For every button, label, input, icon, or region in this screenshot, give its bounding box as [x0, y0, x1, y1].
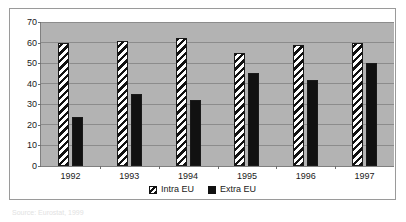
- y-axis-tick: 30: [41, 104, 42, 105]
- y-axis-tick-label: 10: [27, 141, 37, 150]
- bar-extra-eu-1996: [307, 80, 318, 166]
- bar-intra-eu-1992: [58, 43, 69, 166]
- bar-extra-eu-1995: [248, 73, 259, 166]
- bar-group: 1992: [58, 22, 83, 166]
- x-axis-tick: [218, 166, 219, 169]
- legend-item-intra-eu: Intra EU: [149, 185, 194, 194]
- y-axis-tick-label: 70: [27, 18, 37, 27]
- gridline: [41, 104, 394, 105]
- y-axis-tick: 40: [41, 84, 42, 85]
- y-axis-tick-mark: [38, 84, 41, 85]
- bar-group: 1997: [352, 22, 377, 166]
- y-axis-tick: 60: [41, 43, 42, 44]
- bar-extra-eu-1994: [190, 100, 201, 166]
- y-axis-tick: 70: [41, 22, 42, 23]
- bar-intra-eu-1993: [117, 41, 128, 166]
- bar-group: 1994: [176, 22, 201, 166]
- x-axis-label-1993: 1993: [119, 172, 139, 181]
- bar-extra-eu-1992: [72, 117, 83, 166]
- x-axis-label-1995: 1995: [237, 172, 257, 181]
- plot-area: 010203040506070199219931994199519961997: [40, 22, 394, 167]
- bar-extra-eu-1997: [366, 63, 377, 166]
- bar-extra-eu-1993: [131, 94, 142, 166]
- bar-group: 1993: [117, 22, 142, 166]
- x-axis-tick: [335, 166, 336, 169]
- y-axis-tick-mark: [38, 22, 41, 23]
- y-axis-tick-mark: [38, 63, 41, 64]
- y-axis-tick-label: 60: [27, 38, 37, 47]
- legend-swatch-intra-eu-icon: [149, 186, 157, 194]
- x-axis-label-1997: 1997: [355, 172, 375, 181]
- x-axis-label-1996: 1996: [296, 172, 316, 181]
- gridline: [41, 42, 394, 43]
- bar-intra-eu-1994: [176, 38, 187, 166]
- bar-intra-eu-1995: [234, 53, 245, 166]
- y-axis-tick: 10: [41, 145, 42, 146]
- chart-legend: Intra EU Extra EU: [10, 185, 395, 194]
- y-axis-tick-mark: [38, 43, 41, 44]
- y-axis-tick: 50: [41, 63, 42, 64]
- y-axis-tick: 20: [41, 125, 42, 126]
- chart-frame: 010203040506070199219931994199519961997 …: [9, 8, 396, 200]
- gridline: [41, 83, 394, 84]
- legend-label-extra-eu: Extra EU: [220, 185, 256, 194]
- figure-caption: Source: Eurostat, 1999: [12, 209, 84, 216]
- gridline: [41, 145, 394, 146]
- y-axis-tick-label: 50: [27, 59, 37, 68]
- x-axis-tick: [276, 166, 277, 169]
- y-axis-tick-label: 20: [27, 120, 37, 129]
- legend-label-intra-eu: Intra EU: [161, 185, 194, 194]
- y-axis-tick: 0: [41, 166, 42, 167]
- bar-intra-eu-1996: [293, 45, 304, 166]
- y-axis-tick-mark: [38, 145, 41, 146]
- y-axis-tick-mark: [38, 166, 41, 167]
- x-axis-tick: [159, 166, 160, 169]
- y-axis-tick-label: 40: [27, 79, 37, 88]
- legend-item-extra-eu: Extra EU: [208, 185, 256, 194]
- bar-group: 1996: [293, 22, 318, 166]
- bar-group: 1995: [234, 22, 259, 166]
- x-axis-label-1994: 1994: [178, 172, 198, 181]
- y-axis-tick-label: 30: [27, 100, 37, 109]
- gridline: [41, 63, 394, 64]
- y-axis-tick-mark: [38, 125, 41, 126]
- gridline: [41, 124, 394, 125]
- gridline: [41, 22, 394, 23]
- x-axis-label-1992: 1992: [60, 172, 80, 181]
- legend-swatch-extra-eu-icon: [208, 186, 216, 194]
- y-axis-tick-label: 0: [32, 162, 37, 171]
- y-axis-tick-mark: [38, 104, 41, 105]
- chart-figure: 010203040506070199219931994199519961997 …: [0, 0, 406, 222]
- bar-intra-eu-1997: [352, 43, 363, 166]
- x-axis-tick: [100, 166, 101, 169]
